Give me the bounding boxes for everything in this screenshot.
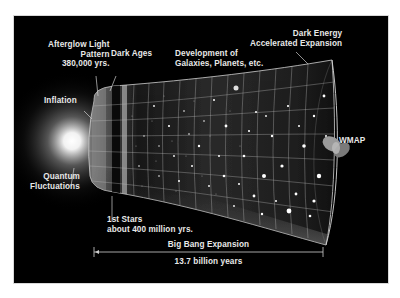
label-afterglow-light-pattern: Afterglow Light Pattern 380,000 yrs. [48,40,110,69]
label-big-bang-expansion: Big Bang Expansion [94,240,323,250]
label-quantum-fluctuations: Quantum Fluctuations [30,172,80,191]
label-inflation: Inflation [44,96,77,106]
universe-timeline-diagram: Afterglow Light Pattern 380,000 yrs. Dar… [14,16,388,283]
label-dark-energy: Dark Energy Accelerated Expansion [250,29,342,48]
label-first-stars: 1st Stars about 400 million yrs. [107,215,193,234]
label-dark-ages: Dark Ages [111,49,152,59]
label-wmap: WMAP [339,136,365,146]
label-duration: 13.7 billion years [94,257,323,267]
label-development-of-galaxies: Development of Galaxies, Planets, etc. [175,49,263,68]
